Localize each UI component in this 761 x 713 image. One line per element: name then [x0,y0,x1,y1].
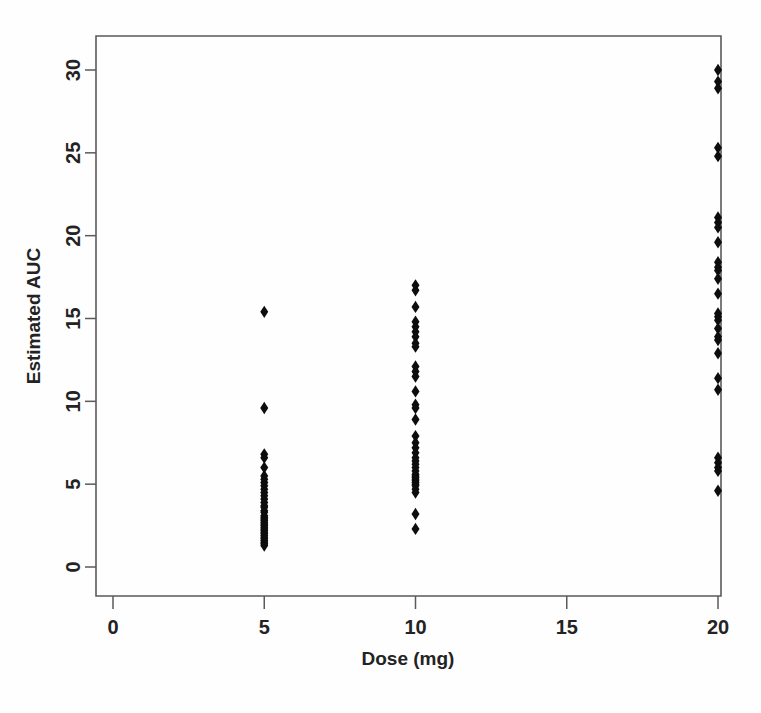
x-tick-label: 10 [404,616,426,638]
x-tick-label: 15 [556,616,578,638]
x-tick-label: 20 [707,616,729,638]
x-tick-label: 5 [259,616,270,638]
y-tick-label: 15 [62,307,84,329]
y-tick-label: 30 [62,59,84,81]
y-tick-label: 5 [62,479,84,490]
plot-background [0,0,761,713]
y-tick-label: 20 [62,225,84,247]
y-tick-label: 10 [62,390,84,412]
y-tick-label: 0 [62,561,84,572]
scatter-plot: 051015202530 05101520 Dose (mg) Estimate… [0,0,761,713]
x-axis-title: Dose (mg) [362,648,455,669]
y-tick-label: 25 [62,142,84,164]
x-tick-label: 0 [107,616,118,638]
figure-container: 051015202530 05101520 Dose (mg) Estimate… [0,0,761,713]
y-axis-title: Estimated AUC [23,247,44,384]
